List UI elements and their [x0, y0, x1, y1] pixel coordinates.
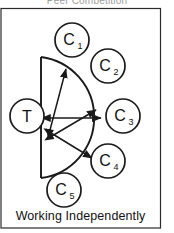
node-child-1: C 1	[55, 23, 89, 57]
node-child-3-label: C	[114, 107, 126, 124]
diagram-canvas: T C 1 C 2 C 3 C 4 C 5	[0, 0, 174, 233]
figure-root: Peer Competition T C 1	[0, 0, 174, 233]
node-teacher-label: T	[22, 108, 32, 125]
node-child-4-label: C	[99, 152, 111, 169]
node-child-4-subscript: 4	[113, 162, 118, 172]
node-child-2-label: C	[99, 57, 111, 74]
node-child-1-label: C	[63, 31, 75, 48]
node-child-2-subscript: 2	[113, 67, 118, 77]
node-child-3: C 3	[106, 99, 140, 133]
node-teacher: T	[10, 99, 44, 133]
bottom-caption: Working Independently	[0, 209, 161, 223]
node-child-5-subscript: 5	[69, 191, 74, 201]
node-child-3-subscript: 3	[128, 117, 133, 127]
node-child-5-label: C	[55, 181, 67, 198]
node-child-2: C 2	[91, 49, 125, 83]
node-child-1-subscript: 1	[77, 41, 82, 51]
node-child-4: C 4	[91, 144, 125, 178]
node-child-5: C 5	[47, 173, 81, 207]
